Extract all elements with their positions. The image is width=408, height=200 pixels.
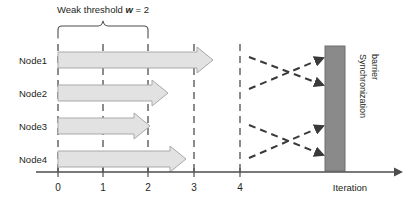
- brace-title-suffix: = 2: [133, 4, 149, 15]
- x-axis-tick-label-3: 3: [191, 182, 197, 193]
- figure-canvas: Weak threshold w = 2 Node1 Node2 Node3 N…: [0, 0, 408, 200]
- dashed-crossing-arrows: [249, 57, 323, 158]
- synchronization-barrier: [325, 46, 345, 171]
- node-label-4: Node4: [19, 154, 47, 165]
- x-axis-arrowhead: [394, 168, 403, 177]
- barrier-label-line1: Synchronization: [358, 54, 368, 118]
- x-axis-tick-label-1: 1: [100, 182, 106, 193]
- dashed-arrow-4: [249, 126, 323, 158]
- node-arrow-4: [58, 146, 186, 172]
- node-arrow-2: [58, 80, 168, 106]
- dashed-arrow-1: [249, 57, 323, 85]
- node-label-2: Node2: [19, 88, 47, 99]
- figure-root: Weak threshold w = 2 Node1 Node2 Node3 N…: [0, 0, 408, 200]
- node-arrows: [58, 47, 213, 172]
- x-axis-title: Iteration: [333, 182, 367, 193]
- barrier-label-line2: barrier: [370, 54, 380, 80]
- brace-title: Weak threshold w = 2: [57, 4, 149, 15]
- x-axis-tick-label-4: 4: [237, 182, 243, 193]
- x-axis: [36, 168, 403, 178]
- node-label-3: Node3: [19, 121, 47, 132]
- node-arrow-1: [58, 47, 213, 73]
- dashed-arrow-3: [249, 125, 323, 155]
- x-axis-tick-label-0: 0: [55, 182, 61, 193]
- weak-threshold-brace: [58, 21, 148, 38]
- node-label-1: Node1: [19, 55, 47, 66]
- brace-title-prefix: Weak threshold: [57, 4, 125, 15]
- node-arrow-3: [58, 113, 150, 139]
- x-axis-tick-label-2: 2: [145, 182, 151, 193]
- dashed-arrow-2: [249, 58, 323, 89]
